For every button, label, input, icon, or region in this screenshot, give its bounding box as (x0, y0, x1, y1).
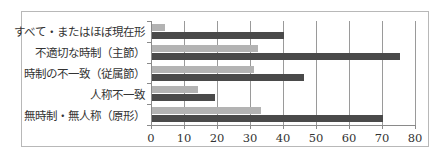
bar-series-dark (152, 74, 304, 81)
x-tick-label: 20 (202, 131, 232, 145)
category-label: 人称不一致 (90, 88, 145, 102)
x-tick-label: 70 (367, 131, 397, 145)
x-tick-label: 0 (136, 131, 166, 145)
category-label: 不適切な時制（主節） (35, 46, 145, 60)
bar-series-light (152, 66, 254, 73)
gridline (415, 21, 416, 125)
gridline (349, 21, 350, 125)
category-label: 時制の不一致（従属節） (24, 67, 145, 81)
x-tick-label: 50 (301, 131, 331, 145)
y-tick (147, 63, 151, 64)
bar-series-dark (152, 53, 400, 60)
y-tick (147, 83, 151, 84)
y-tick (147, 42, 151, 43)
x-tick (415, 125, 416, 129)
x-tick-label: 40 (268, 131, 298, 145)
y-tick (147, 104, 151, 105)
x-tick (283, 125, 284, 129)
x-tick (250, 125, 251, 129)
plot-area (151, 21, 415, 125)
bar-series-dark (152, 115, 383, 122)
bar-series-light (152, 86, 198, 93)
y-tick (147, 21, 151, 22)
y-tick (147, 125, 151, 126)
category-label: すべて・またはほぼ現在形 (14, 25, 145, 39)
category-label: 無時制・無人称（原形） (24, 109, 145, 123)
x-tick (349, 125, 350, 129)
gridline (382, 21, 383, 125)
x-tick (151, 125, 152, 129)
x-tick-label: 80 (400, 131, 430, 145)
x-tick-label: 30 (235, 131, 265, 145)
bar-series-light (152, 107, 261, 114)
gridline (316, 21, 317, 125)
x-tick (217, 125, 218, 129)
x-tick (184, 125, 185, 129)
x-tick-label: 10 (169, 131, 199, 145)
x-tick (316, 125, 317, 129)
bar-series-light (152, 45, 258, 52)
x-tick-label: 60 (334, 131, 364, 145)
bar-series-dark (152, 94, 215, 101)
bar-series-light (152, 24, 165, 31)
bar-series-dark (152, 32, 284, 39)
x-tick (382, 125, 383, 129)
